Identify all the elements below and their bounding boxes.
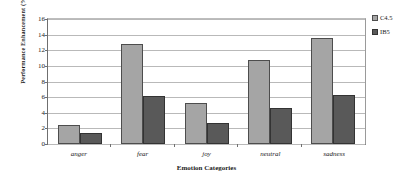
bar-chart: Performance Enhancement (%) 024681012141…: [0, 0, 410, 189]
x-axis-tick-mark: [301, 144, 302, 147]
bar-group: [111, 19, 174, 144]
legend-swatch-icon: [372, 15, 378, 21]
bar: [143, 96, 165, 144]
y-axis-tick-label: 16: [38, 15, 45, 23]
y-axis-tick-label: 10: [38, 62, 45, 70]
bar: [270, 108, 292, 144]
y-axis-tick-label: 12: [38, 46, 45, 54]
bar: [185, 103, 207, 144]
legend-label: C4.5: [380, 14, 392, 21]
bar-group: [238, 19, 301, 144]
x-axis-tick-label: fear: [111, 150, 175, 158]
bars: [111, 19, 174, 144]
bar-group: [175, 19, 238, 144]
legend-swatch-icon: [372, 29, 378, 35]
x-axis-tick-mark: [174, 144, 175, 147]
bar: [333, 95, 355, 144]
bars: [238, 19, 301, 144]
x-axis-tick-label: sadness: [302, 150, 366, 158]
bar: [248, 60, 270, 144]
y-axis-tick-mark: [45, 144, 48, 145]
bar-groups: [48, 19, 365, 144]
legend-item[interactable]: C4.5: [372, 14, 410, 21]
bar-group: [48, 19, 111, 144]
bar: [207, 123, 229, 144]
x-axis-tick-labels: angerfearjoyneutralsadness: [47, 150, 366, 158]
bars: [302, 19, 365, 144]
bar: [58, 125, 80, 144]
legend-item[interactable]: IB5: [372, 28, 410, 35]
y-axis-tick-label: 14: [38, 31, 45, 39]
x-axis-title: Emotion Categories: [47, 164, 366, 172]
bar: [311, 38, 333, 144]
gridline: 0: [48, 144, 365, 145]
bars: [175, 19, 238, 144]
y-axis-title: Performance Enhancement (%): [19, 0, 26, 100]
bar: [80, 133, 102, 144]
plot-area: 0246810121416: [47, 18, 366, 145]
x-axis-tick-label: joy: [175, 150, 239, 158]
bar: [121, 44, 143, 144]
legend: C4.5IB5: [372, 14, 410, 42]
x-axis-tick-mark: [110, 144, 111, 147]
x-axis-tick-mark: [237, 144, 238, 147]
x-axis-tick-label: neutral: [238, 150, 302, 158]
x-axis-tick-label: anger: [47, 150, 111, 158]
legend-label: IB5: [380, 28, 390, 35]
bars: [48, 19, 111, 144]
bar-group: [302, 19, 365, 144]
